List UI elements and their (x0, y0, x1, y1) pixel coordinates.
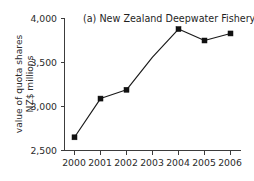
series-line-quota-value (75, 29, 231, 137)
y-tick-label-2500: 2,500 (30, 145, 57, 156)
x-tick-label-2002: 2002 (114, 157, 138, 168)
data-point-2002 (124, 87, 129, 92)
x-tick-label-2005: 2005 (192, 157, 216, 168)
x-tick-label-2000: 2000 (62, 157, 86, 168)
y-axis-label-line1: value of quota shares (14, 35, 24, 134)
data-point-2001 (98, 96, 103, 101)
data-point-2005 (202, 38, 207, 43)
line-chart: (a) New Zealand Deepwater Fishery value … (0, 0, 254, 181)
x-tick-label-2003: 2003 (140, 157, 164, 168)
data-point-2000 (72, 135, 77, 140)
y-tick-label-3000: 3,000 (30, 101, 57, 112)
data-point-2004 (176, 27, 181, 32)
x-tick-label-2004: 2004 (166, 157, 190, 168)
x-tick-label-2001: 2001 (88, 157, 112, 168)
y-tick-label-4000: 4,000 (30, 13, 57, 24)
series-markers (72, 27, 233, 140)
data-point-2006 (228, 31, 233, 36)
y-tick-label-3500: 3,500 (30, 57, 57, 68)
chart-figure: (a) New Zealand Deepwater Fishery value … (0, 0, 254, 181)
chart-title: (a) New Zealand Deepwater Fishery (83, 13, 254, 24)
x-tick-label-2006: 2006 (218, 157, 242, 168)
